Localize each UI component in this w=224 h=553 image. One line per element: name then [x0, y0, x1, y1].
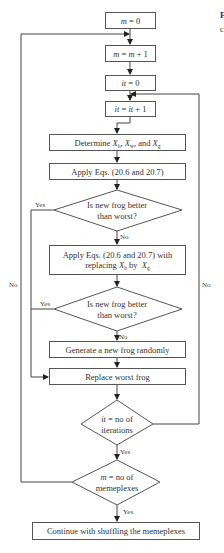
decision4-text: m = no of memeplexes: [74, 472, 160, 493]
margin-fragment-bottom: c: [220, 25, 224, 34]
decision4-no-label: No: [9, 281, 18, 289]
apply-with-replacing-box: Apply Eqs. (20.6 and 20.7) with replacin…: [49, 245, 186, 275]
continue-shuffling-box: Continue with shuffling the memeplexes: [32, 522, 200, 540]
margin-fragment-top: F: [220, 10, 224, 20]
decision2-yes-label: Yes: [40, 300, 50, 308]
replace-worst-frog-box: Replace worst frog: [49, 368, 186, 385]
decision3-text: it = no of iterations: [82, 414, 152, 435]
init-m-box: m = 0: [105, 12, 156, 29]
increment-m-box: m = m + 1: [105, 45, 156, 62]
generate-frog-box: Generate a new frog randomly: [49, 341, 186, 358]
decision2-no-label: No: [119, 333, 128, 341]
determine-box: Determine Xb, Xw, and Xg: [49, 134, 186, 151]
apply-equations-box: Apply Eqs. (20.6 and 20.7): [49, 163, 186, 180]
decision2-text: Is new frog better than worst?: [64, 299, 170, 320]
decision1-no-label: No: [120, 233, 129, 241]
init-it-box: it = 0: [105, 75, 156, 91]
increment-it-box: it = it + 1: [105, 101, 156, 117]
decision1-yes-label: Yes: [35, 201, 45, 209]
decision3-yes-label: Yes: [120, 448, 130, 456]
decision4-yes-label: Yes: [123, 508, 133, 516]
decision3-no-label: No: [202, 281, 211, 289]
decision1-text: Is new frog better than worst?: [64, 200, 170, 221]
